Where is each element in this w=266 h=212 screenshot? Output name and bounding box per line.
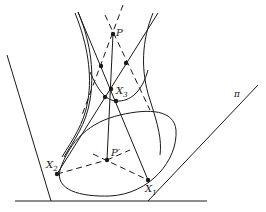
point-X3 <box>109 87 113 91</box>
point-generator-left-upper <box>99 64 103 68</box>
hyperboloid-left-outline <box>62 13 89 157</box>
point-P <box>111 32 115 36</box>
plane-pi-edge <box>148 85 258 201</box>
point-generator-left-lower <box>103 95 107 99</box>
label-X3: X3 <box>116 86 128 99</box>
point-generator-right-lower <box>114 99 118 103</box>
label-X1: X1 <box>145 184 157 197</box>
label-X3-sub: 3 <box>123 91 127 99</box>
label-X2-sub: 2 <box>53 165 57 173</box>
line-P-Pprime <box>107 34 113 160</box>
left-plane-edge <box>7 55 51 201</box>
label-pi: π <box>234 90 240 99</box>
label-P-prime: P′ <box>111 148 120 158</box>
point-X1 <box>146 178 150 182</box>
point-P-prime <box>105 158 109 162</box>
point-generator-right-upper <box>124 61 128 65</box>
hyperboloid-left-outline-inner <box>64 12 92 157</box>
dashed-Pprime-X1 <box>93 154 148 180</box>
hyperboloid-diagram <box>0 0 266 212</box>
label-P: P <box>116 28 123 38</box>
label-X2: X2 <box>46 160 58 173</box>
hyperboloid-right-outline <box>144 13 161 155</box>
label-X1-sub: 1 <box>152 189 156 197</box>
